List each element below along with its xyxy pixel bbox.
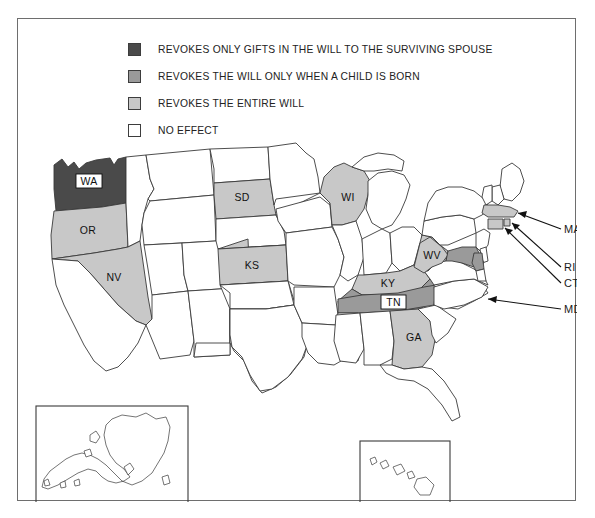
state-MT[interactable]	[146, 149, 214, 201]
callout-CT: CT	[505, 228, 577, 289]
state-AR[interactable]	[294, 287, 338, 325]
legend-swatch-medium	[128, 70, 141, 83]
arrowhead-MA	[518, 211, 527, 218]
legend: REVOKES ONLY GIFTS IN THE WILL TO THE SU…	[128, 36, 568, 144]
state-label-WA-text: WA	[80, 175, 97, 187]
state-ME[interactable]	[500, 163, 524, 201]
legend-item-revokes-entire-will[interactable]: REVOKES THE ENTIRE WILL	[128, 90, 568, 117]
state-MI[interactable]	[366, 171, 410, 229]
state-WY[interactable]	[142, 195, 216, 245]
state-CT[interactable]	[488, 219, 503, 229]
state-label-OR: OR	[80, 224, 96, 236]
state-label-SD: SD	[234, 191, 249, 203]
arrowhead-MD	[488, 296, 497, 303]
state-label-WV: WV	[423, 249, 441, 261]
state-label-GA: GA	[406, 331, 422, 343]
state-label-WI: WI	[341, 191, 354, 203]
callout-MD: MD	[488, 296, 577, 315]
state-label-TN-text: TN	[386, 296, 401, 308]
state-MN[interactable]	[268, 143, 320, 205]
state-label-WA: WA	[76, 174, 102, 188]
state-TX-body[interactable]	[230, 305, 308, 391]
state-OK-body[interactable]	[220, 281, 294, 309]
state-label-KY: KY	[381, 277, 396, 289]
callout-MA: MA	[518, 211, 577, 235]
state-VA-eastern-shore[interactable]	[476, 269, 486, 281]
legend-swatch-light	[128, 97, 141, 110]
state-label-NV: NV	[106, 271, 121, 283]
alaska-inset[interactable]	[36, 406, 188, 502]
state-AL[interactable]	[360, 311, 394, 365]
legend-label-revokes-gifts-to-spouse: REVOKES ONLY GIFTS IN THE WILL TO THE SU…	[158, 44, 493, 55]
state-label-TN: TN	[381, 295, 406, 309]
state-UT[interactable]	[144, 243, 188, 295]
state-NE[interactable]	[216, 215, 286, 249]
state-IA-body[interactable]	[276, 197, 332, 233]
hawaii-inset[interactable]	[360, 441, 450, 502]
us-map-svg[interactable]: WA OR NV SD WI KS KY WV TN GA	[18, 129, 577, 502]
callout-label-CT: CT	[564, 277, 577, 289]
legend-item-revokes-gifts-to-spouse[interactable]: REVOKES ONLY GIFTS IN THE WILL TO THE SU…	[128, 36, 568, 63]
callout-label-MD: MD	[564, 303, 577, 315]
callout-label-MA: MA	[564, 223, 577, 235]
state-MO[interactable]	[286, 227, 344, 287]
state-AZ[interactable]	[146, 291, 194, 359]
legend-label-revokes-entire-will: REVOKES THE ENTIRE WILL	[158, 98, 304, 109]
state-MA[interactable]	[482, 205, 518, 217]
legend-label-revokes-when-child-born: REVOKES THE WILL ONLY WHEN A CHILD IS BO…	[158, 71, 420, 82]
state-label-KS: KS	[245, 259, 260, 271]
state-MD-east[interactable]	[472, 253, 484, 271]
state-MI-up[interactable]	[352, 153, 404, 171]
state-RI[interactable]	[504, 219, 510, 226]
map-figure-page: REVOKES ONLY GIFTS IN THE WILL TO THE SU…	[0, 0, 595, 518]
legend-swatch-dark	[128, 43, 141, 56]
callout-label-RI: RI	[564, 261, 576, 273]
state-IN[interactable]	[362, 229, 392, 275]
legend-item-revokes-when-child-born[interactable]: REVOKES THE WILL ONLY WHEN A CHILD IS BO…	[128, 63, 568, 90]
state-FL[interactable]	[380, 365, 460, 421]
us-map[interactable]: WA OR NV SD WI KS KY WV TN GA	[18, 129, 577, 502]
state-ND[interactable]	[210, 147, 270, 183]
state-MS-body[interactable]	[334, 313, 364, 363]
figure-frame: REVOKES ONLY GIFTS IN THE WILL TO THE SU…	[17, 18, 576, 501]
